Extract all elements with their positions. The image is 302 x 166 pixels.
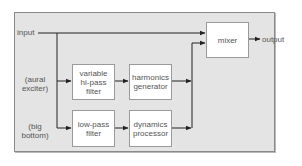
big-bottom-label: (big bottom) bbox=[18, 122, 52, 140]
variable-hipass-filter-label: variable hi-pass filter bbox=[76, 69, 112, 96]
dynamics-processor-block: dynamics processor bbox=[129, 110, 172, 147]
mixer-block: mixer bbox=[206, 22, 249, 58]
mixer-label: mixer bbox=[218, 36, 238, 45]
lowpass-filter-block: low-pass filter bbox=[72, 110, 115, 147]
aural-exciter-label: (aural exciter) bbox=[18, 75, 52, 93]
variable-hipass-filter-block: variable hi-pass filter bbox=[72, 64, 115, 100]
dynamics-processor-label: dynamics processor bbox=[131, 120, 171, 138]
lowpass-filter-label: low-pass filter bbox=[76, 120, 112, 138]
harmonics-generator-block: harmonics generator bbox=[129, 64, 172, 100]
input-label: input bbox=[17, 28, 34, 37]
output-label: output bbox=[262, 35, 284, 44]
harmonics-generator-label: harmonics generator bbox=[131, 73, 171, 91]
